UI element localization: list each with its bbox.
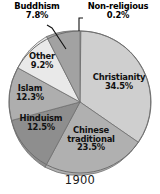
slice-label-chinese-traditional-percent: 23.5% — [63, 143, 119, 152]
slice-label-other: Other 9.2% — [18, 52, 66, 69]
slice-label-islam: Islam 12.3% — [6, 84, 54, 101]
slice-label-islam-percent: 12.3% — [6, 93, 54, 102]
slice-label-buddhism: Buddhism 7.8% — [4, 2, 70, 19]
chart-year-caption: 1900 — [0, 173, 160, 187]
slice-label-christianity-percent: 34.5% — [86, 82, 152, 91]
slice-label-christianity: Christianity 34.5% — [86, 73, 152, 90]
slice-label-chinese-traditional: Chinese traditional 23.5% — [63, 126, 119, 152]
slice-label-other-percent: 9.2% — [18, 61, 66, 70]
slice-label-hinduism: Hinduism 12.5% — [12, 114, 70, 131]
leader-line-non-religious — [79, 18, 83, 31]
slice-label-non-religious-percent: 0.2% — [79, 11, 157, 20]
slice-label-non-religious: Non-religious 0.2% — [79, 2, 157, 19]
pie-chart: Buddhism 7.8% Non-religious 0.2% Christi… — [0, 0, 160, 194]
slice-label-hinduism-percent: 12.5% — [12, 123, 70, 132]
slice-label-buddhism-percent: 7.8% — [4, 11, 70, 20]
